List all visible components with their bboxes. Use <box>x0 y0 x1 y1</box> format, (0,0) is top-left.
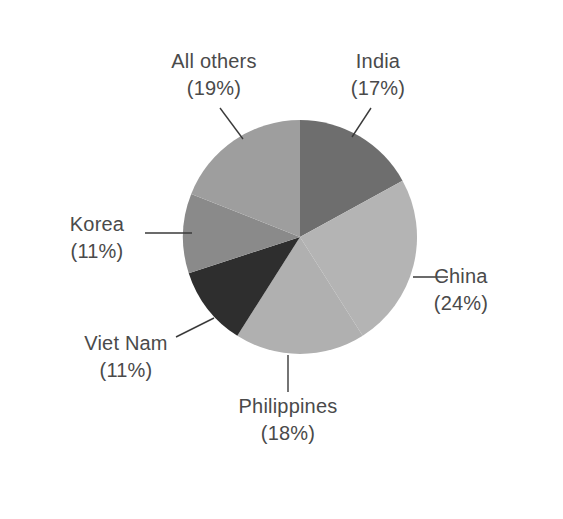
slice-label-all-others: All others <box>171 50 256 72</box>
pie-chart: India(17%)China(24%)Philippines(18%)Viet… <box>0 0 563 519</box>
slice-label-korea: Korea <box>70 213 125 235</box>
slice-label-china: China <box>434 265 488 287</box>
slice-label-viet-nam: Viet Nam <box>84 332 168 354</box>
slice-percent-all-others: (19%) <box>187 77 241 99</box>
slice-label-india: India <box>356 50 401 72</box>
slice-percent-viet-nam: (11%) <box>100 359 153 381</box>
slice-label-philippines: Philippines <box>239 395 338 417</box>
slice-percent-korea: (11%) <box>71 240 124 262</box>
leader-line-india <box>352 108 371 137</box>
pie-slices-group <box>183 120 417 354</box>
leader-line-all-others <box>220 108 243 139</box>
leader-line-viet-nam <box>176 318 214 337</box>
slice-percent-philippines: (18%) <box>261 422 315 444</box>
slice-percent-china: (24%) <box>434 292 488 314</box>
pie-chart-page: India(17%)China(24%)Philippines(18%)Viet… <box>0 0 563 519</box>
slice-percent-india: (17%) <box>351 77 405 99</box>
